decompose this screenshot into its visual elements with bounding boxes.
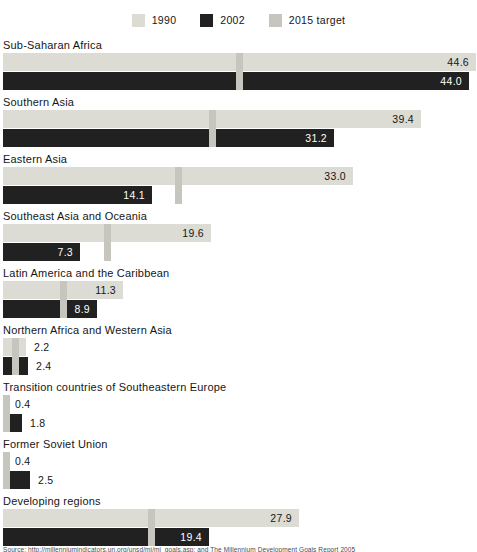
chart-legend: 1990 2002 2015 target: [0, 13, 477, 27]
bar-row: 31.2: [3, 129, 477, 147]
bar-row: 0.4: [3, 452, 477, 470]
target-2015-marker: [60, 281, 67, 318]
target-2015-marker: [104, 224, 111, 261]
bar-row: 8.9: [3, 300, 477, 318]
target-2015-marker: [148, 509, 155, 546]
region-group: Eastern Asia33.014.1: [0, 153, 477, 204]
legend-item-2015-target: 2015 target: [269, 14, 345, 27]
bar-row: 14.1: [3, 186, 477, 204]
bar-row: 19.4: [3, 528, 477, 546]
bar-2002: 14.1: [3, 186, 152, 204]
region-label: Sub-Saharan Africa: [0, 39, 477, 53]
region-label: Northern Africa and Western Asia: [0, 324, 477, 338]
target-2015-marker: [209, 110, 216, 147]
legend-swatch-1990: [132, 14, 145, 27]
region-group: Developing regions27.919.4: [0, 495, 477, 546]
bar-value-label: 7.3: [58, 246, 81, 258]
bar-2002: 31.2: [3, 129, 334, 147]
bar-value-label: 0.4: [15, 452, 31, 470]
bar-row: 2.5: [3, 471, 477, 489]
region-group: Sub-Saharan Africa44.644.0: [0, 39, 477, 90]
bar-row: 2.2: [3, 338, 477, 356]
region-group: Latin America and the Caribbean11.38.9: [0, 267, 477, 318]
region-label: Transition countries of Southeastern Eur…: [0, 381, 477, 395]
source-note: Source: http://millenniumindicators.un.o…: [3, 546, 355, 552]
bar-row: 33.0: [3, 167, 477, 185]
legend-item-1990: 1990: [132, 14, 177, 27]
bar-pair: 2.22.4: [3, 338, 477, 375]
bar-pair: 0.41.8: [3, 395, 477, 432]
bar-pair: 19.67.3: [3, 224, 477, 261]
bar-value-label: 19.4: [180, 531, 209, 543]
region-label: Former Soviet Union: [0, 438, 477, 452]
grouped-bar-chart: Sub-Saharan Africa44.644.0Southern Asia3…: [0, 39, 477, 546]
bar-row: 7.3: [3, 243, 477, 261]
target-2015-marker: [236, 53, 243, 90]
legend-label-2015-target: 2015 target: [289, 14, 345, 26]
bar-row: 1.8: [3, 414, 477, 432]
bar-pair: 11.38.9: [3, 281, 477, 318]
bar-row: 19.6: [3, 224, 477, 242]
bar-value-label: 39.4: [392, 113, 421, 125]
bar-pair: 0.42.5: [3, 452, 477, 489]
region-label: Eastern Asia: [0, 153, 477, 167]
region-group: Southern Asia39.431.2: [0, 96, 477, 147]
region-group: Northern Africa and Western Asia2.22.4: [0, 324, 477, 375]
bar-row: 27.9: [3, 509, 477, 527]
bar-2002: 7.3: [3, 243, 80, 261]
bar-value-label: 14.1: [123, 189, 152, 201]
bar-pair: 39.431.2: [3, 110, 477, 147]
bar-pair: 44.644.0: [3, 53, 477, 90]
region-group: Transition countries of Southeastern Eur…: [0, 381, 477, 432]
target-2015-marker: [12, 338, 19, 375]
bar-value-label: 44.0: [440, 75, 469, 87]
bar-value-label: 2.5: [38, 471, 54, 489]
target-2015-marker: [175, 167, 182, 204]
target-2015-marker: [3, 395, 10, 432]
region-label: Developing regions: [0, 495, 477, 509]
region-label: Southern Asia: [0, 96, 477, 110]
bar-pair: 33.014.1: [3, 167, 477, 204]
bar-pair: 27.919.4: [3, 509, 477, 546]
bar-row: 11.3: [3, 281, 477, 299]
bar-value-label: 33.0: [324, 170, 353, 182]
bar-2002: 8.9: [3, 300, 97, 318]
region-group: Former Soviet Union0.42.5: [0, 438, 477, 489]
legend-label-2002: 2002: [220, 14, 245, 26]
bar-value-label: 2.2: [34, 338, 50, 356]
bar-value-label: 8.9: [75, 303, 98, 315]
legend-item-2002: 2002: [200, 14, 245, 27]
bar-row: 0.4: [3, 395, 477, 413]
bar-value-label: 0.4: [15, 395, 31, 413]
bar-value-label: 27.9: [270, 512, 299, 524]
region-group: Southeast Asia and Oceania19.67.3: [0, 210, 477, 261]
bar-row: 39.4: [3, 110, 477, 128]
bar-value-label: 2.4: [36, 357, 52, 375]
target-2015-marker: [3, 452, 10, 489]
bar-value-label: 11.3: [95, 284, 123, 296]
bar-value-label: 31.2: [305, 132, 334, 144]
region-label: Latin America and the Caribbean: [0, 267, 477, 281]
bar-value-label: 44.6: [447, 56, 476, 68]
bar-value-label: 19.6: [182, 227, 211, 239]
bar-value-label: 1.8: [30, 414, 46, 432]
legend-swatch-2015-target: [269, 14, 282, 27]
bar-2002: 19.4: [3, 528, 209, 546]
legend-label-1990: 1990: [152, 14, 177, 26]
legend-swatch-2002: [200, 14, 213, 27]
bar-row: 2.4: [3, 357, 477, 375]
region-label: Southeast Asia and Oceania: [0, 210, 477, 224]
